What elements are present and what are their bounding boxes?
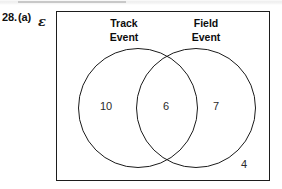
universal-set-symbol: ɛ bbox=[38, 15, 46, 28]
region-value-track-only: 10 bbox=[86, 101, 126, 112]
venn-diagram-figure: 28.(a) ɛ Track Event Field Event 10 6 7 … bbox=[0, 0, 282, 189]
scan-artifact-streak bbox=[18, 1, 126, 3]
question-part-label: (a) bbox=[18, 11, 31, 23]
set-label-field-event-line1: Field bbox=[172, 17, 240, 31]
question-number: 28.(a) bbox=[2, 11, 31, 23]
region-value-intersection: 6 bbox=[148, 101, 184, 112]
set-label-field-event: Field Event bbox=[172, 17, 240, 45]
region-value-field-only: 7 bbox=[198, 101, 234, 112]
scan-artifact-band bbox=[0, 0, 282, 5]
set-label-field-event-line2: Event bbox=[172, 31, 240, 45]
set-label-track-event-line1: Track bbox=[90, 17, 158, 31]
set-label-track-event-line2: Event bbox=[90, 31, 158, 45]
set-label-track-event: Track Event bbox=[90, 17, 158, 45]
region-value-outside-both: 4 bbox=[232, 159, 256, 170]
question-number-value: 28. bbox=[2, 11, 17, 23]
